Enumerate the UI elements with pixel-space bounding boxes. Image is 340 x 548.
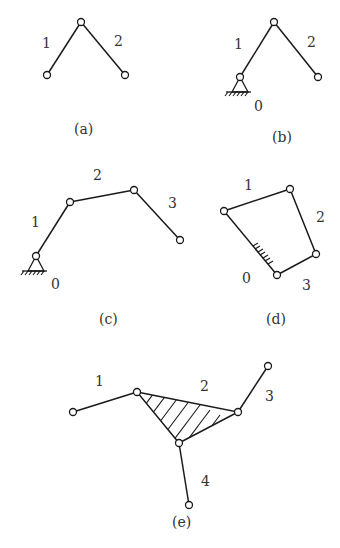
joint-icon xyxy=(33,253,40,260)
joint-icon xyxy=(265,363,272,370)
link-3 xyxy=(277,254,316,275)
label-ground: 0 xyxy=(242,270,251,286)
kinematic-chains-figure: 1 2 (a) 1 2 0 (b) xyxy=(0,0,340,548)
label-link-2: 2 xyxy=(316,209,325,225)
joint-icon xyxy=(70,409,77,416)
link-1 xyxy=(240,22,274,77)
label-link-1: 1 xyxy=(42,35,51,51)
joint-icon xyxy=(131,187,138,194)
caption-d: (d) xyxy=(266,311,286,327)
link-1 xyxy=(36,202,70,256)
label-link-3: 3 xyxy=(302,277,311,293)
joint-icon xyxy=(274,272,281,279)
label-ground: 0 xyxy=(51,276,60,292)
joint-icon xyxy=(235,409,242,416)
link-1 xyxy=(73,392,137,412)
joint-icon xyxy=(237,74,244,81)
caption-c: (c) xyxy=(99,311,118,327)
diagram-a: 1 2 (a) xyxy=(42,19,129,138)
caption-a: (a) xyxy=(74,121,93,137)
label-link-1: 1 xyxy=(31,214,40,230)
diagram-b: 1 2 0 (b) xyxy=(225,19,322,146)
label-link-1: 1 xyxy=(234,36,243,52)
link-1 xyxy=(47,22,81,75)
joint-icon xyxy=(134,389,141,396)
link-2 xyxy=(70,190,134,202)
ground-hatch-icon xyxy=(253,243,273,264)
link-1 xyxy=(224,189,290,211)
label-link-2: 2 xyxy=(307,34,316,50)
joint-icon xyxy=(315,74,322,81)
joint-icon xyxy=(67,199,74,206)
label-link-2: 2 xyxy=(114,33,123,49)
label-link-4: 4 xyxy=(201,473,210,489)
link-0-ground xyxy=(224,211,277,275)
joint-icon xyxy=(287,186,294,193)
diagram-e: 1 2 3 4 (e) xyxy=(70,363,274,531)
joint-icon xyxy=(271,19,278,26)
joint-icon xyxy=(176,440,183,447)
link-3 xyxy=(238,366,268,412)
joint-icon xyxy=(177,237,184,244)
joint-icon xyxy=(122,72,129,79)
joint-icon xyxy=(44,72,51,79)
diagram-d: 1 2 3 0 (d) xyxy=(221,177,325,327)
link-2 xyxy=(290,189,316,254)
joint-icon xyxy=(221,208,228,215)
joint-icon xyxy=(186,502,193,509)
joint-icon xyxy=(78,19,85,26)
label-link-3: 3 xyxy=(168,195,177,211)
link-4 xyxy=(179,443,189,505)
caption-b: (b) xyxy=(272,129,292,145)
label-link-2: 2 xyxy=(200,378,209,394)
label-link-3: 3 xyxy=(265,388,274,404)
caption-e: (e) xyxy=(172,514,191,530)
label-link-1: 1 xyxy=(95,373,104,389)
label-ground: 0 xyxy=(254,98,263,114)
joint-icon xyxy=(313,251,320,258)
label-link-2: 2 xyxy=(93,167,102,183)
diagram-c: 1 2 3 0 (c) xyxy=(21,167,184,327)
label-link-1: 1 xyxy=(244,177,253,193)
